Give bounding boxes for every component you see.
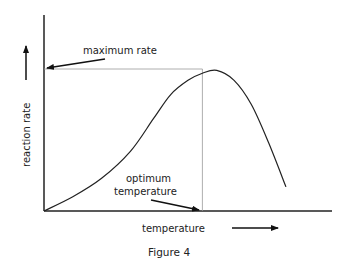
maximum-rate-arrow xyxy=(47,59,105,68)
x-axis-label: temperature xyxy=(142,223,205,234)
enzyme-rate-diagram: maximum rate optimum temperature reactio… xyxy=(0,0,345,270)
maximum-rate-label: maximum rate xyxy=(83,45,157,56)
y-axis-label: reaction rate xyxy=(21,103,32,167)
optimum-temperature-arrow xyxy=(151,200,199,210)
optimum-label-line2: temperature xyxy=(114,186,177,197)
optimum-label-line1: optimum xyxy=(126,173,171,184)
figure-caption: Figure 4 xyxy=(148,246,190,258)
